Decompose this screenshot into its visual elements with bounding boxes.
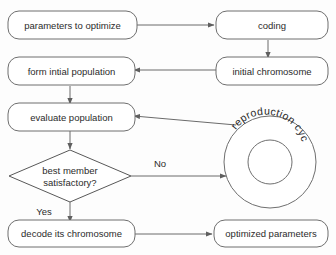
node-decision-label-line2: satisfactory? [43, 177, 96, 188]
node-evaluate-population-label: evaluate population [30, 112, 112, 123]
node-decision-best-member-satisfactory[interactable]: best member satisfactory? [9, 150, 131, 202]
node-decision-label-line1: best member [42, 165, 97, 176]
edge-reproduction-to-evaluate [134, 116, 236, 125]
node-decode-its-chromosome[interactable]: decode its chromosome [8, 220, 135, 247]
node-coding[interactable]: coding [216, 11, 328, 39]
flowchart-svg: reproduction cycle parameters to optimiz… [0, 0, 336, 255]
ring-inner-circle [248, 140, 292, 184]
node-evaluate-population[interactable]: evaluate population [8, 103, 135, 131]
flowchart-canvas: reproduction cycle parameters to optimiz… [0, 0, 336, 255]
node-optimized-label: optimized parameters [225, 228, 317, 239]
node-coding-label: coding [258, 20, 286, 31]
node-decode-label: decode its chromosome [21, 228, 122, 239]
node-parameters-label: parameters to optimize [24, 20, 121, 31]
node-parameters-to-optimize[interactable]: parameters to optimize [8, 11, 137, 39]
node-form-population-label: form intial population [28, 66, 116, 77]
node-initial-chromosome[interactable]: initial chromosome [216, 57, 328, 85]
edge-label-yes: Yes [36, 206, 52, 217]
edge-label-no: No [154, 158, 166, 169]
node-form-intial-population[interactable]: form intial population [8, 57, 135, 85]
node-initial-chromosome-label: initial chromosome [232, 66, 311, 77]
node-decision-shape [9, 150, 131, 202]
node-optimized-parameters[interactable]: optimized parameters [214, 220, 328, 247]
